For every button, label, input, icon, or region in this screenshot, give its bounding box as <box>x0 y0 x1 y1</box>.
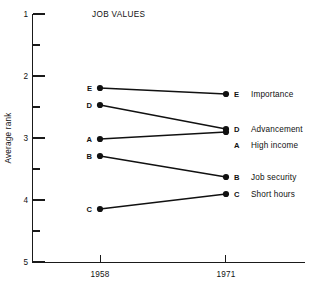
series-e-name: Importance <box>251 90 294 99</box>
series-e-code-left: E <box>87 84 92 93</box>
series-a-point-1958 <box>97 136 103 142</box>
series-d-advancement: D D Advancement <box>87 101 304 134</box>
y-tick-label-3: 3 <box>23 134 28 143</box>
series-b-point-1971 <box>223 174 229 180</box>
series-e-line <box>100 88 226 94</box>
series-d-code-right: D <box>234 125 240 134</box>
series-b-job-security: B B Job security <box>87 152 298 182</box>
series-c-name: Short hours <box>251 190 295 199</box>
series-c-code-right: C <box>234 190 240 199</box>
series-b-code-left: B <box>87 152 93 161</box>
series-d-code-left: D <box>87 101 93 110</box>
series-c-point-1971 <box>223 191 229 197</box>
series-d-point-1958 <box>97 102 103 108</box>
y-tick-label-5: 5 <box>23 258 28 267</box>
series-c-point-1958 <box>97 206 103 212</box>
series-e-importance: E E Importance <box>87 84 294 99</box>
series-d-name: Advancement <box>251 125 303 134</box>
x-axis-ticks <box>101 255 226 262</box>
x-tick-label-1971: 1971 <box>216 270 235 279</box>
series-a-name: High income <box>251 141 298 150</box>
series-d-line <box>100 105 226 129</box>
series-a-code-right: A <box>234 141 240 150</box>
series-b-point-1958 <box>97 153 103 159</box>
job-values-chart: JOB VALUES Average rank 1 2 3 4 5 <box>0 0 315 285</box>
axis-lines <box>33 14 305 263</box>
chart-canvas: JOB VALUES Average rank 1 2 3 4 5 <box>0 0 315 285</box>
y-tick-label-2: 2 <box>23 72 28 81</box>
chart-title: JOB VALUES <box>92 10 146 19</box>
series-e-code-right: E <box>234 90 239 99</box>
series-c-short-hours: C C Short hours <box>87 190 295 214</box>
series-b-code-right: B <box>234 173 240 182</box>
y-axis-label: Average rank <box>4 112 13 164</box>
series-c-line <box>100 194 226 209</box>
series-c-code-left: C <box>87 205 93 214</box>
y-tick-label-1: 1 <box>23 10 28 19</box>
series-a-line <box>100 132 226 139</box>
series-a-code-left: A <box>87 135 93 144</box>
series-b-line <box>100 156 226 177</box>
y-tick-label-4: 4 <box>23 196 28 205</box>
x-tick-label-1958: 1958 <box>90 270 109 279</box>
y-axis-ticks <box>33 14 46 262</box>
series-e-point-1958 <box>97 85 103 91</box>
series-e-point-1971 <box>223 91 229 97</box>
series-b-name: Job security <box>251 173 297 182</box>
series-a-point-1971 <box>223 129 229 135</box>
